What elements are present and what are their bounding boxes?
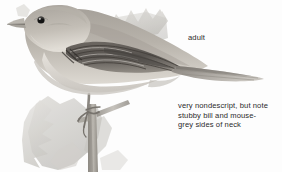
label-adult: adult xyxy=(188,33,205,43)
label-field-note: very nondescript, but note stubby bill a… xyxy=(178,101,268,130)
bird-illustration-plate: adult very nondescript, but note stubby … xyxy=(0,0,282,172)
bird-artwork xyxy=(0,0,282,172)
